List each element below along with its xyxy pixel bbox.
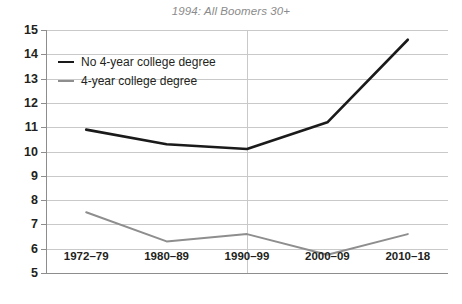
y-axis-label-6: 6 xyxy=(4,243,38,256)
x-axis-label-2: 1990–99 xyxy=(225,250,270,262)
y-axis-label-8: 8 xyxy=(4,194,38,207)
series-line-degree xyxy=(86,212,408,255)
legend-swatch-icon-dark xyxy=(58,61,74,63)
y-axis-label-14: 14 xyxy=(4,48,38,61)
y-tick-mark-5 xyxy=(41,273,46,274)
x-axis-label-3: 2000–09 xyxy=(305,250,350,262)
line-chart: 1994: All Boomers 30+ 56789101112131415 … xyxy=(0,0,462,304)
legend-label-degree: 4-year college degree xyxy=(81,74,197,88)
y-axis-label-13: 13 xyxy=(4,73,38,86)
legend-item-degree: 4-year college degree xyxy=(58,71,216,90)
y-axis-label-15: 15 xyxy=(4,24,38,37)
y-axis-label-11: 11 xyxy=(4,121,38,134)
legend-item-no-degree: No 4-year college degree xyxy=(58,52,216,71)
y-axis-label-12: 12 xyxy=(4,97,38,110)
gridline-y-5 xyxy=(46,273,448,274)
chart-legend: No 4-year college degree 4-year college … xyxy=(58,52,216,90)
chart-title: 1994: All Boomers 30+ xyxy=(0,5,462,17)
y-axis-label-10: 10 xyxy=(4,146,38,159)
x-axis-label-0: 1972–79 xyxy=(64,250,109,262)
legend-label-no-degree: No 4-year college degree xyxy=(81,55,216,69)
y-axis-label-9: 9 xyxy=(4,170,38,183)
x-axis-label-4: 2010–18 xyxy=(385,250,430,262)
y-axis-label-7: 7 xyxy=(4,218,38,231)
legend-swatch-icon-gray xyxy=(58,80,74,82)
y-axis-label-5: 5 xyxy=(4,267,38,280)
x-axis-label-1: 1980–89 xyxy=(144,250,189,262)
